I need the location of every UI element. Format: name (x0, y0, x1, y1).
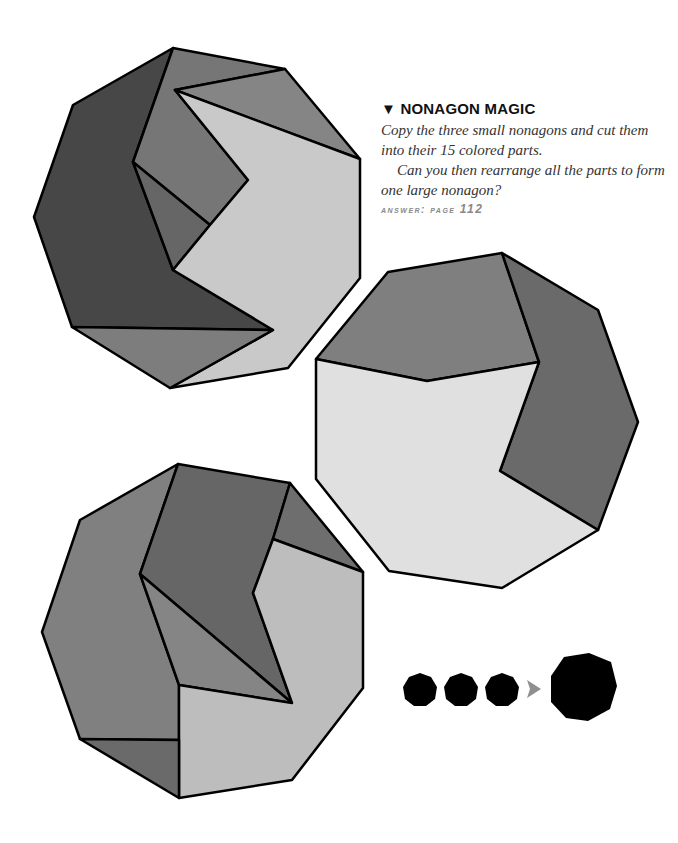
answer-page: 112 (460, 202, 484, 216)
puzzle-instruction-2: Can you then rearrange all the parts to … (381, 160, 671, 200)
puzzle-caption: ▼ NONAGON MAGIC Copy the three small non… (381, 100, 671, 216)
piece-bottom-triangle (80, 739, 179, 798)
nonagon-top-left (34, 48, 360, 388)
small-nonagon-icon (403, 673, 437, 706)
puzzle-title: ▼ NONAGON MAGIC (381, 100, 671, 117)
nonagon-bottom-left (42, 464, 363, 798)
legend-diagram (403, 653, 617, 721)
nonagon-right (316, 253, 638, 588)
right-arrow-icon (527, 680, 541, 698)
small-nonagon-icon (485, 673, 519, 706)
answer-label: Answer: page (381, 204, 456, 215)
puzzle-instruction-1: Copy the three small nonagons and cut th… (381, 120, 671, 160)
answer-reference: Answer: page 112 (381, 202, 671, 216)
large-nonagon-icon (551, 653, 617, 721)
small-nonagon-icon (444, 673, 478, 706)
triangle-down-icon: ▼ (381, 100, 396, 117)
puzzle-title-text: NONAGON MAGIC (400, 100, 535, 117)
